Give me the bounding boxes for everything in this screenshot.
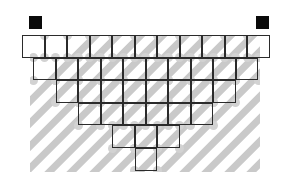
grid-cell [135,125,158,148]
grid-cell [191,58,214,81]
grid-cell [101,58,124,81]
grid-cell [225,35,248,58]
marker-top-left [28,15,43,30]
grid-cell [191,103,214,126]
grid-cell [67,35,90,58]
grid-cell [78,103,101,126]
grid-cell [168,103,191,126]
grid-cell [56,80,79,103]
grid-cell [78,80,101,103]
grid-cell [146,58,169,81]
grid-cell [236,58,259,81]
grid-cell [213,58,236,81]
grid-cell [135,148,158,171]
grid-cell [202,35,225,58]
grid-cell [123,103,146,126]
grid-cell [135,35,158,58]
grid-cell [112,35,135,58]
grid-cell [123,58,146,81]
grid-cell [146,80,169,103]
grid-cell [168,80,191,103]
grid-cell [78,58,101,81]
stepped-triangle-grid [0,0,290,177]
grid-cell [123,80,146,103]
marker-top-right [255,15,270,30]
grid-cell [22,35,45,58]
figure-root [0,0,290,177]
grid-cell [112,125,135,148]
grid-cell [45,35,68,58]
grid-cell [191,80,214,103]
grid-cell [157,35,180,58]
grid-cell [90,35,113,58]
grid-cell [247,35,270,58]
grid-cell [157,125,180,148]
grid-cell [146,103,169,126]
grid-cell [168,58,191,81]
grid-cell [213,80,236,103]
grid-cell [180,35,203,58]
grid-cell [101,103,124,126]
grid-cell [101,80,124,103]
grid-cell [33,58,56,81]
grid-cell [56,58,79,81]
